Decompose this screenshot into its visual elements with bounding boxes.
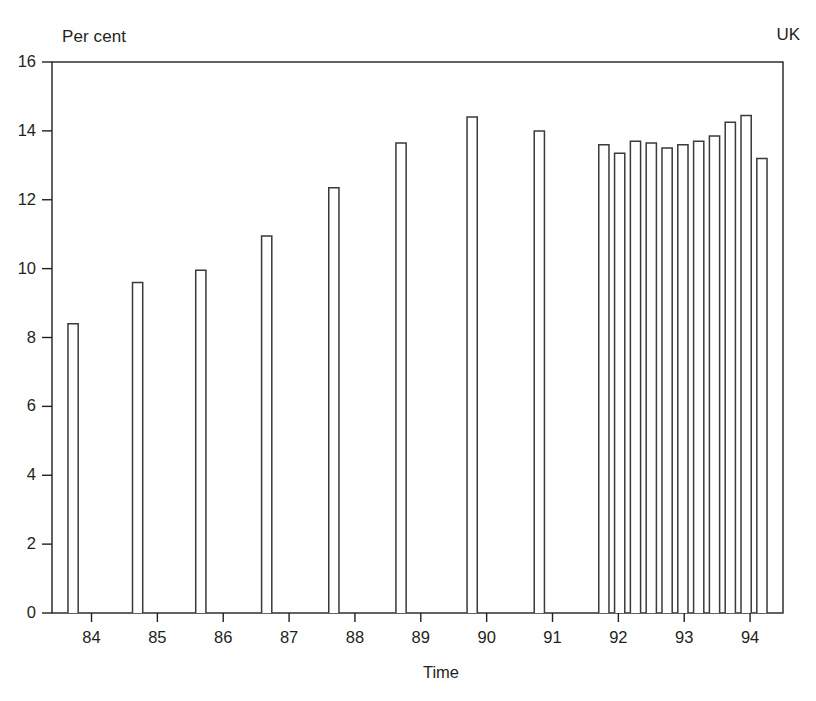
- bar: [757, 158, 767, 613]
- bar: [467, 117, 477, 613]
- bar: [329, 188, 339, 613]
- x-tick-label: 84: [71, 629, 113, 646]
- y-tick-label: 14: [6, 122, 36, 139]
- bar: [133, 282, 143, 613]
- x-tick-label: 93: [663, 629, 705, 646]
- bar: [630, 141, 640, 613]
- y-tick-label: 4: [6, 466, 36, 483]
- x-axis-title: Time: [381, 663, 501, 682]
- x-tick-label: 94: [729, 629, 771, 646]
- y-tick-label: 10: [6, 260, 36, 277]
- bar: [68, 324, 78, 613]
- y-tick-label: 6: [6, 397, 36, 414]
- bar: [694, 141, 704, 613]
- plot-frame: [52, 62, 783, 613]
- bar: [725, 122, 735, 613]
- bar: [662, 148, 672, 613]
- chart-figure: Per cent UK 0246810121416 84858687888990…: [0, 0, 816, 701]
- bar: [678, 145, 688, 613]
- bar: [709, 136, 719, 613]
- plot-area: [0, 0, 816, 701]
- x-tick-label: 88: [334, 629, 376, 646]
- bar: [534, 131, 544, 613]
- y-tick-label: 0: [6, 604, 36, 621]
- y-tick-label: 8: [6, 329, 36, 346]
- y-tick-label: 16: [6, 53, 36, 70]
- x-tick-label: 90: [466, 629, 508, 646]
- x-tick-label: 92: [597, 629, 639, 646]
- x-tick-label: 85: [136, 629, 178, 646]
- y-tick-label: 12: [6, 191, 36, 208]
- bar: [599, 145, 609, 613]
- plot-border: [52, 62, 783, 613]
- x-tick-label: 89: [400, 629, 442, 646]
- bar: [196, 270, 206, 613]
- bar-series: [68, 115, 767, 613]
- bar: [646, 143, 656, 613]
- bar: [741, 115, 751, 613]
- bar: [396, 143, 406, 613]
- y-tick-label: 2: [6, 535, 36, 552]
- bar: [262, 236, 272, 613]
- bar: [615, 153, 625, 613]
- x-tick-label: 87: [268, 629, 310, 646]
- x-tick-label: 86: [202, 629, 244, 646]
- x-tick-label: 91: [532, 629, 574, 646]
